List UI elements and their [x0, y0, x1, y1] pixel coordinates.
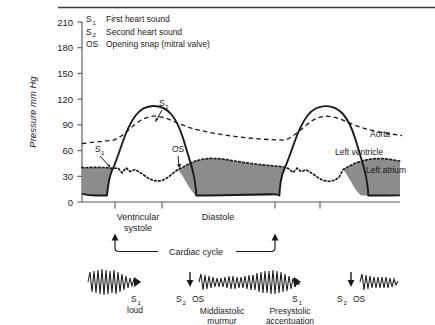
phase-ventricular-systole-line1: Ventricular	[117, 212, 160, 222]
sound-caption-presystolic-line1: Presystolic	[269, 306, 311, 316]
legend-key-s2-subscript: 2	[93, 31, 97, 38]
y-tick-label-60: 60	[62, 145, 73, 156]
phase-ventricular-systole-line2: systole	[124, 223, 152, 233]
y-tick-label-180: 180	[57, 42, 73, 53]
legend-key-s1: S	[86, 14, 92, 24]
y-tick-label-30: 30	[62, 171, 73, 182]
sound-caption-middiastolic-line1: Middiastolic	[200, 306, 245, 316]
sound-label-s2-second-subscript: 2	[344, 299, 348, 306]
y-tick-label-150: 150	[57, 68, 73, 79]
y-tick-label-90: 90	[62, 119, 73, 130]
y-tick-label-210: 210	[57, 17, 73, 28]
sound-label-s1-first: S	[131, 294, 137, 304]
sound-label-s1-second: S	[292, 294, 298, 304]
legend-key-os: OS	[86, 39, 99, 49]
sound-label-s2-second: S	[337, 294, 343, 304]
legend-desc-s2: Second heart sound	[106, 27, 182, 37]
sound-label-s2-first: S	[176, 294, 182, 304]
y-tick-label-120: 120	[57, 94, 73, 105]
phase-diastole: Diastole	[202, 212, 235, 222]
curve-label-left-ventricle: Left ventricle	[335, 147, 383, 157]
cardiac-cycle-label: Cardiac cycle	[169, 247, 223, 257]
legend-desc-os: Opening snap (mitral valve)	[106, 39, 210, 49]
curve-label-aorta: Aorta	[370, 129, 391, 139]
sound-caption-s1-loud: loud	[127, 305, 143, 315]
annotation-s1-subscript: 1	[101, 149, 105, 156]
sound-label-os-second: OS	[353, 294, 366, 304]
sound-caption-middiastolic-line2: murmur	[207, 316, 236, 325]
legend-key-s1-subscript: 1	[93, 19, 97, 26]
sound-label-os-first: OS	[192, 294, 205, 304]
legend-key-s2: S	[86, 27, 92, 37]
annotation-os-label: OS	[172, 144, 185, 154]
y-tick-label-0: 0	[68, 197, 73, 208]
sound-caption-presystolic-line2: accentuation	[266, 316, 314, 325]
cardiac-pressure-figure: 210 180 150 120 90 60 30 0 Pressure mm H…	[0, 0, 435, 325]
legend-desc-s1: First heart sound	[106, 14, 170, 24]
annotation-s2-subscript: 2	[165, 103, 169, 110]
curve-label-left-atrium: Left atrium	[366, 165, 406, 175]
y-axis-title: Pressure mm Hg	[27, 76, 38, 148]
sound-label-s2-first-subscript: 2	[183, 299, 187, 306]
sound-label-s1-second-subscript: 1	[299, 299, 303, 306]
